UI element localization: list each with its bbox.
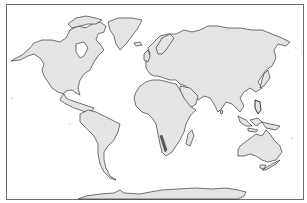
world-map [0, 0, 307, 203]
world-map-svg [0, 0, 307, 203]
